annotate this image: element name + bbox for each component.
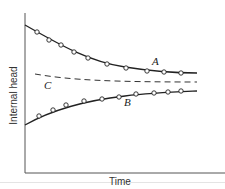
curve-b-label: B — [124, 96, 131, 108]
curve-c-line — [35, 74, 197, 82]
line-chart — [0, 0, 225, 189]
curve-a-label: A — [152, 55, 159, 67]
curve-a-markers — [35, 30, 183, 75]
curve-a-line — [25, 25, 197, 73]
curve-c-label: C — [44, 79, 51, 91]
y-axis-label: Internal head — [8, 61, 19, 131]
curve-b-line — [25, 91, 197, 125]
x-axis-label: Time — [100, 176, 140, 187]
